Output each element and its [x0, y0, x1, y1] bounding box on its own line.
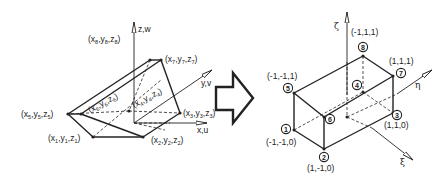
xi-axis [372, 128, 413, 160]
node-6-number: 6 [328, 116, 332, 123]
node-8-coords: (-1,1,1) [351, 27, 379, 37]
node-7-coords: (1,1,1) [389, 56, 414, 66]
node-7-number: 7 [399, 70, 403, 77]
x-axis-label: x,u [197, 125, 209, 135]
node-3-number: 3 [395, 112, 399, 119]
node-2-number: 2 [322, 154, 326, 161]
node-8-number: 8 [361, 44, 365, 51]
node-number-circles [281, 42, 405, 161]
node-5-label: (x5,y5,z5) [21, 109, 54, 120]
z-axis-label: z,w [138, 24, 152, 34]
element-hidden-edges [68, 60, 180, 137]
node-2-label: (x2,y2,z2) [151, 135, 184, 146]
y-axis-label: y,v [201, 78, 212, 88]
zeta-axis-label: ζ [334, 21, 339, 31]
node-2-coords: (1,-1,0) [307, 163, 335, 173]
node-4-label: (x4,y4,z4) [130, 86, 164, 111]
element-solid-edges [68, 60, 180, 137]
node-8-label: (x8,y8,z8) [88, 34, 121, 45]
node-7-label: (x7,y7,z7) [165, 54, 198, 65]
element-mapping-diagram: z,w y,v x,u (x8,y8,z8) (x7,y7,z7) (x5,y5… [0, 0, 433, 187]
xi-axis-label: ξ [400, 157, 405, 167]
eta-axis-label: η [415, 80, 420, 90]
parent-labels: 8 7 5 4 6 3 1 2 (-1,1,1) (1,1,1) (-1,-1,… [266, 21, 420, 173]
node-1-number: 1 [284, 126, 288, 133]
node-3-label: (x3,y3,z3) [183, 108, 216, 119]
node-1-coords: (-1,-1,0) [266, 137, 296, 147]
node-5-coords: (-1,-1,1) [267, 71, 297, 81]
node-4-number: 4 [355, 82, 359, 89]
node-5-number: 5 [286, 85, 290, 92]
node-1-label: (x1,y1,z1) [48, 133, 81, 144]
mapping-arrow-icon [216, 73, 253, 123]
node-3-coords: (1,1,0) [384, 120, 409, 130]
